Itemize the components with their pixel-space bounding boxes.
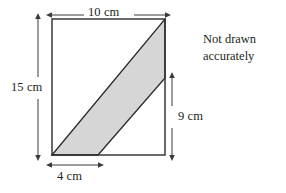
not-drawn-accurately-note: Not drawn accurately (203, 31, 256, 64)
figure-canvas (0, 0, 286, 193)
note-line-1: Not drawn (203, 31, 256, 48)
geometry-figure: 10 cm 15 cm 9 cm 4 cm Not drawn accurate… (0, 0, 286, 193)
shaded-parallelogram (52, 19, 165, 155)
dimension-label-bottom-base: 4 cm (57, 170, 82, 183)
dimension-label-right-height: 9 cm (178, 110, 203, 123)
dimension-label-top-width: 10 cm (88, 6, 119, 19)
dimension-label-left-height: 15 cm (11, 81, 42, 94)
note-line-2: accurately (203, 48, 256, 65)
